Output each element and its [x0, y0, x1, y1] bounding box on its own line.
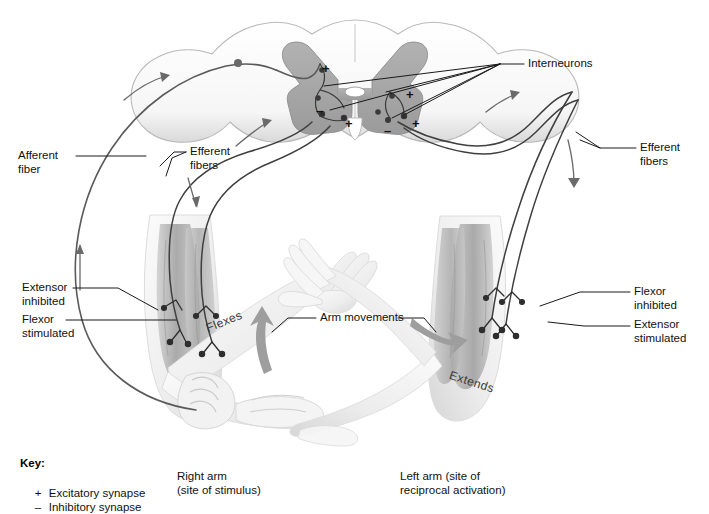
synapse-sign-left-minus: –: [316, 104, 323, 117]
label-extensor-inhibited: Extensor inhibited: [22, 281, 67, 308]
label-arm-movements: Arm movements: [320, 311, 404, 325]
synapse-sign-right-minus: –: [384, 124, 391, 137]
caption-left-arm-line1: Left arm (site of: [400, 470, 480, 484]
synapse-sign-right-ventral-plus: +: [412, 117, 420, 130]
label-interneurons: Interneurons: [528, 57, 593, 71]
synapse-sign-left-dorsal-plus: +: [322, 62, 330, 75]
key-title: Key:: [20, 457, 45, 469]
key-symbol-minus: –: [35, 500, 49, 514]
label-flexor-inhibited: Flexor inhibited: [634, 285, 677, 312]
synapse-sign-left-ventral-plus: +: [345, 117, 353, 130]
key-item-inhibitory: –Inhibitory synapse: [22, 486, 141, 514]
leader-lines-layer: [0, 0, 709, 514]
label-afferent-fiber: Afferent fiber: [18, 149, 58, 176]
label-extensor-stimulated: Extensor stimulated: [634, 318, 686, 345]
label-flexor-stimulated: Flexor stimulated: [22, 313, 74, 340]
label-efferent-fibers-right: Efferent fibers: [640, 141, 680, 168]
caption-right-arm-line2: (site of stimulus): [177, 484, 261, 498]
caption-left-arm-line2: reciprocal activation): [400, 484, 505, 498]
synapse-sign-right-plus-upper: +: [406, 88, 414, 101]
key-label-inhibitory: Inhibitory synapse: [49, 501, 142, 513]
label-efferent-fibers-left: Efferent fibers: [190, 145, 230, 172]
figure-canvas: + – + + + – Interneurons Afferent fiber …: [0, 0, 709, 514]
caption-right-arm-line1: Right arm: [177, 470, 227, 484]
